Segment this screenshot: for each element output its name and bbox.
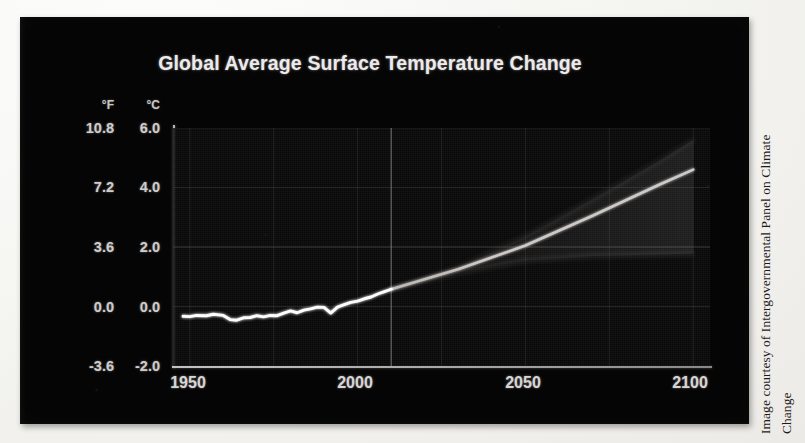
y-tick-celsius: 4.0 xyxy=(116,180,160,195)
unit-header-celsius: °C xyxy=(120,98,160,112)
x-tick-2000: 2000 xyxy=(337,374,373,392)
y-tick-celsius: 6.0 xyxy=(116,121,160,136)
y-tick-celsius: 2.0 xyxy=(116,240,160,255)
x-tick-2100: 2100 xyxy=(672,374,708,392)
y-tick-celsius: -2.0 xyxy=(116,359,160,374)
image-credit: Image courtesy of Intergovernmental Pane… xyxy=(755,0,801,443)
plot-area xyxy=(173,128,710,366)
image-credit-text: Image courtesy of Intergovernmental Pane… xyxy=(755,9,797,434)
unit-header-fahrenheit: °F xyxy=(72,98,114,112)
y-tick-fahrenheit: 10.8 xyxy=(54,121,114,136)
image-credit-line-1: Image courtesy of Intergovernmental Pane… xyxy=(758,135,773,434)
scanned-page: Global Average Surface Temperature Chang… xyxy=(0,0,805,443)
y-tick-fahrenheit: 7.2 xyxy=(54,180,114,195)
y-tick-fahrenheit: 0.0 xyxy=(54,300,114,315)
x-axis-line xyxy=(172,366,712,368)
chart-panel: Global Average Surface Temperature Chang… xyxy=(20,17,749,424)
x-tick-2050: 2050 xyxy=(505,374,541,392)
plot-svg xyxy=(173,128,710,366)
y-tick-celsius: 0.0 xyxy=(116,300,160,315)
y-tick-fahrenheit: -3.6 xyxy=(54,359,114,374)
chart-title: Global Average Surface Temperature Chang… xyxy=(20,52,720,75)
image-credit-line-2: Change xyxy=(776,9,797,434)
x-tick-1950: 1950 xyxy=(170,374,206,392)
projection-envelope xyxy=(391,140,693,289)
y-tick-fahrenheit: 3.6 xyxy=(54,240,114,255)
